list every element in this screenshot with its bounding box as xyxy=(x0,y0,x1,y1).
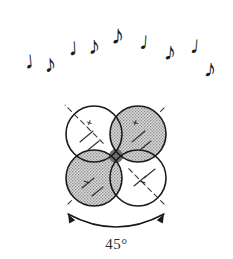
rotation-arrow xyxy=(68,214,164,227)
rotation-arrow-arc xyxy=(68,214,164,227)
orbital-axis-line xyxy=(65,105,103,143)
orbital-sign-bottom-right: − xyxy=(136,173,148,190)
orbital-diagram: ++−− xyxy=(0,0,233,259)
figure-canvas: ♩♪♩♪♪♩♪♩♪ ++−− 45° xyxy=(0,0,233,259)
angle-label: 45° xyxy=(0,236,233,253)
orbital-lobe-tick xyxy=(80,131,93,142)
orbital-sign-top-left: + xyxy=(84,116,94,129)
orbital-lobe-tick xyxy=(88,141,99,150)
